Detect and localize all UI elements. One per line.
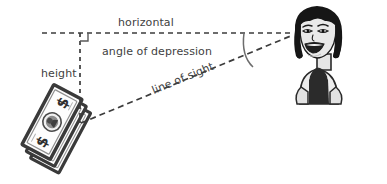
observer-woman-illustration	[294, 6, 342, 104]
label-angle-of-depression: angle of depression	[102, 45, 212, 58]
angle-of-depression-diagram: $ $	[0, 0, 387, 184]
right-angle-marker-icon	[80, 33, 88, 41]
diagram-canvas: $ $	[0, 0, 387, 184]
label-height: height	[41, 67, 77, 80]
angle-of-depression-arc	[243, 33, 253, 67]
label-horizontal: horizontal	[118, 16, 174, 29]
stack-of-dollar-bills-icon: $ $	[18, 84, 94, 173]
